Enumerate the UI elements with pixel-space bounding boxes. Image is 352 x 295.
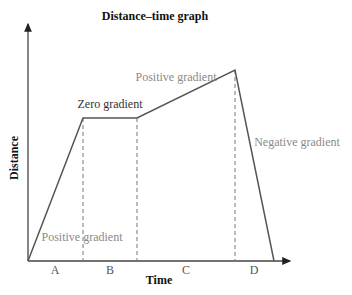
segment-label-d: D <box>250 263 259 277</box>
distance-time-chart: Distance–time graph Positive gradient Ze… <box>0 0 352 295</box>
x-axis-label: Time <box>146 273 173 287</box>
segment-label-a: A <box>51 263 60 277</box>
annotation-segment-c: Positive gradient <box>136 70 218 84</box>
chart-title: Distance–time graph <box>102 9 209 23</box>
segment-label-c: C <box>182 263 190 277</box>
annotation-segment-d: Negative gradient <box>254 135 340 149</box>
annotation-segment-b: Zero gradient <box>78 97 144 111</box>
y-axis-label: Distance <box>7 135 21 180</box>
segment-label-b: B <box>106 263 114 277</box>
annotation-segment-a: Positive gradient <box>42 230 124 244</box>
